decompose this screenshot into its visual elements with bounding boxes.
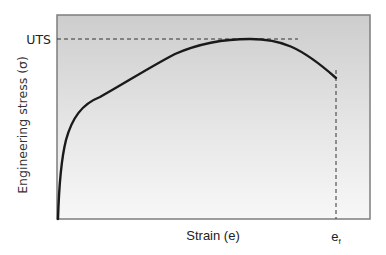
uts-label: UTS: [26, 32, 51, 47]
y-axis-label: Engineering stress (σ): [15, 56, 30, 194]
chart-canvas: [0, 0, 386, 255]
fracture-strain-label: ef: [331, 229, 340, 246]
ef-subscript: f: [339, 237, 341, 246]
x-axis-label: Strain (e): [186, 228, 239, 243]
plot-area: [57, 15, 370, 219]
